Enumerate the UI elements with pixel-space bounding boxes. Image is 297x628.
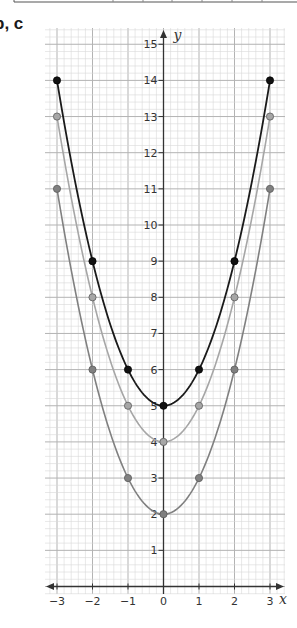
y-tick-label: 14 bbox=[144, 74, 158, 87]
y-tick-label: 3 bbox=[151, 472, 158, 485]
data-point-series-3 bbox=[195, 474, 202, 481]
x-tick-label: −1 bbox=[120, 595, 136, 608]
data-point-series-1 bbox=[195, 366, 202, 373]
data-point-series-1 bbox=[160, 402, 167, 409]
data-point-series-1 bbox=[124, 366, 131, 373]
data-point-series-3 bbox=[231, 366, 238, 373]
y-tick-label: 6 bbox=[151, 364, 158, 377]
x-tick-label: −3 bbox=[49, 595, 65, 608]
x-tick-label: 3 bbox=[267, 595, 274, 608]
data-point-series-3 bbox=[266, 185, 273, 192]
x-tick-label: 0 bbox=[160, 595, 167, 608]
data-point-series-3 bbox=[160, 511, 167, 518]
y-tick-label: 11 bbox=[144, 183, 158, 196]
y-tick-label: 15 bbox=[144, 38, 158, 51]
y-tick-label: 7 bbox=[151, 327, 158, 340]
data-point-series-2 bbox=[53, 113, 60, 120]
data-point-series-1 bbox=[53, 77, 60, 84]
data-point-series-3 bbox=[89, 366, 96, 373]
y-axis-label: y bbox=[173, 27, 183, 43]
data-point-series-2 bbox=[89, 294, 96, 301]
x-tick-label: 2 bbox=[231, 595, 238, 608]
parabola-chart: xy−3−2−10123123456789101112131415 bbox=[0, 0, 297, 628]
data-point-series-2 bbox=[124, 402, 131, 409]
data-point-series-2 bbox=[266, 113, 273, 120]
y-tick-label: 13 bbox=[144, 111, 158, 124]
y-tick-label: 8 bbox=[151, 291, 158, 304]
data-point-series-3 bbox=[124, 474, 131, 481]
y-tick-label: 9 bbox=[151, 255, 158, 268]
x-axis-label: x bbox=[279, 591, 287, 607]
y-tick-label: 1 bbox=[151, 544, 158, 557]
x-tick-label: −2 bbox=[84, 595, 100, 608]
data-point-series-1 bbox=[89, 258, 96, 265]
grid bbox=[45, 28, 285, 594]
data-point-series-2 bbox=[160, 438, 167, 445]
data-point-series-1 bbox=[266, 77, 273, 84]
data-point-series-1 bbox=[231, 258, 238, 265]
data-point-series-2 bbox=[231, 294, 238, 301]
x-tick-label: 1 bbox=[196, 595, 203, 608]
y-tick-label: 10 bbox=[144, 219, 158, 232]
y-tick-label: 12 bbox=[144, 147, 158, 160]
data-point-series-2 bbox=[195, 402, 202, 409]
data-point-series-3 bbox=[53, 185, 60, 192]
